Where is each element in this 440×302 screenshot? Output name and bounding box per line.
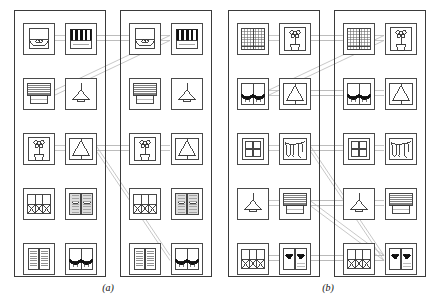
heart-shutters-icon (386, 244, 416, 274)
cell-pendant-lamp-icon[interactable] (171, 78, 203, 110)
cell-venetian-blind-slats-icon[interactable] (279, 188, 311, 220)
cell-pendant-lamp-icon[interactable] (343, 188, 375, 220)
louvered-shutters-icon (130, 244, 160, 274)
pendant-lamp-icon (238, 189, 268, 219)
cell-potted-flower-window-icon[interactable] (385, 23, 417, 55)
roman-shade-scalloped-icon (24, 24, 54, 54)
cell-draped-swag-curtain-icon[interactable] (385, 133, 417, 165)
pendant-lamp-icon (66, 79, 96, 109)
tent-awning-triangle-icon (66, 134, 96, 164)
roman-shade-scalloped-icon (130, 24, 160, 54)
venetian-blind-slats-icon (130, 79, 160, 109)
grid-sheer-curtain-icon (238, 24, 268, 54)
striped-awning-black-icon (172, 24, 202, 54)
cell-potted-flower-window-icon[interactable] (23, 133, 55, 165)
pendant-lamp-icon (344, 189, 374, 219)
cell-swag-valance-pair-icon[interactable] (171, 243, 203, 275)
caption-b: (b) (308, 282, 348, 293)
heart-shutters-icon (280, 244, 310, 274)
tent-awning-triangle-icon (280, 79, 310, 109)
cell-louvered-shutters-icon[interactable] (23, 243, 55, 275)
cell-venetian-blind-slats-icon[interactable] (23, 78, 55, 110)
cell-pendant-lamp-icon[interactable] (237, 188, 269, 220)
cell-pendant-lamp-icon[interactable] (65, 78, 97, 110)
figure-canvas: (a)(b) (0, 0, 440, 302)
textured-drapes-pair-icon (66, 189, 96, 219)
cell-textured-drapes-pair-icon[interactable] (171, 188, 203, 220)
venetian-blind-slats-icon (386, 189, 416, 219)
cell-potted-flower-window-icon[interactable] (129, 133, 161, 165)
textured-drapes-pair-icon (172, 189, 202, 219)
venetian-blind-slats-icon (280, 189, 310, 219)
cell-swag-valance-pair-icon[interactable] (343, 78, 375, 110)
cell-venetian-blind-slats-icon[interactable] (385, 188, 417, 220)
potted-flower-window-icon (24, 134, 54, 164)
panel-b-query-column (228, 10, 320, 277)
cell-textured-drapes-pair-icon[interactable] (65, 188, 97, 220)
potted-flower-window-icon (130, 134, 160, 164)
swag-valance-pair-icon (66, 244, 96, 274)
swag-valance-pair-icon (344, 79, 374, 109)
cell-heart-shutters-icon[interactable] (385, 243, 417, 275)
cell-striped-awning-black-icon[interactable] (65, 23, 97, 55)
cell-heart-shutters-icon[interactable] (279, 243, 311, 275)
cell-four-pane-window-icon[interactable] (343, 133, 375, 165)
cell-louvered-shutters-icon[interactable] (129, 243, 161, 275)
cell-grid-sheer-curtain-icon[interactable] (237, 23, 269, 55)
panel-b-result-column (334, 10, 426, 277)
tent-awning-triangle-icon (172, 134, 202, 164)
cell-lattice-cross-window-icon[interactable] (237, 243, 269, 275)
cell-venetian-blind-slats-icon[interactable] (129, 78, 161, 110)
lattice-cross-window-icon (24, 189, 54, 219)
cell-tent-awning-triangle-icon[interactable] (171, 133, 203, 165)
swag-valance-pair-icon (172, 244, 202, 274)
louvered-shutters-icon (24, 244, 54, 274)
cell-four-pane-window-icon[interactable] (237, 133, 269, 165)
cell-tent-awning-triangle-icon[interactable] (279, 78, 311, 110)
four-pane-window-icon (238, 134, 268, 164)
lattice-cross-window-icon (238, 244, 268, 274)
cell-swag-valance-pair-icon[interactable] (237, 78, 269, 110)
cell-draped-swag-curtain-icon[interactable] (279, 133, 311, 165)
cell-swag-valance-pair-icon[interactable] (65, 243, 97, 275)
four-pane-window-icon (344, 134, 374, 164)
swag-valance-pair-icon (238, 79, 268, 109)
cell-potted-flower-window-icon[interactable] (279, 23, 311, 55)
potted-flower-window-icon (280, 24, 310, 54)
caption-a: (a) (88, 282, 128, 293)
lattice-cross-window-icon (130, 189, 160, 219)
draped-swag-curtain-icon (386, 134, 416, 164)
cell-grid-sheer-curtain-icon[interactable] (343, 23, 375, 55)
cell-tent-awning-triangle-icon[interactable] (65, 133, 97, 165)
panel-a-result-column (120, 10, 212, 277)
pendant-lamp-icon (172, 79, 202, 109)
cell-lattice-cross-window-icon[interactable] (343, 243, 375, 275)
cell-roman-shade-scalloped-icon[interactable] (129, 23, 161, 55)
grid-sheer-curtain-icon (344, 24, 374, 54)
cell-lattice-cross-window-icon[interactable] (23, 188, 55, 220)
striped-awning-black-icon (66, 24, 96, 54)
cell-roman-shade-scalloped-icon[interactable] (23, 23, 55, 55)
cell-lattice-cross-window-icon[interactable] (129, 188, 161, 220)
tent-awning-triangle-icon (386, 79, 416, 109)
lattice-cross-window-icon (344, 244, 374, 274)
venetian-blind-slats-icon (24, 79, 54, 109)
draped-swag-curtain-icon (280, 134, 310, 164)
cell-striped-awning-black-icon[interactable] (171, 23, 203, 55)
cell-tent-awning-triangle-icon[interactable] (385, 78, 417, 110)
potted-flower-window-icon (386, 24, 416, 54)
panel-a-query-column (14, 10, 106, 277)
